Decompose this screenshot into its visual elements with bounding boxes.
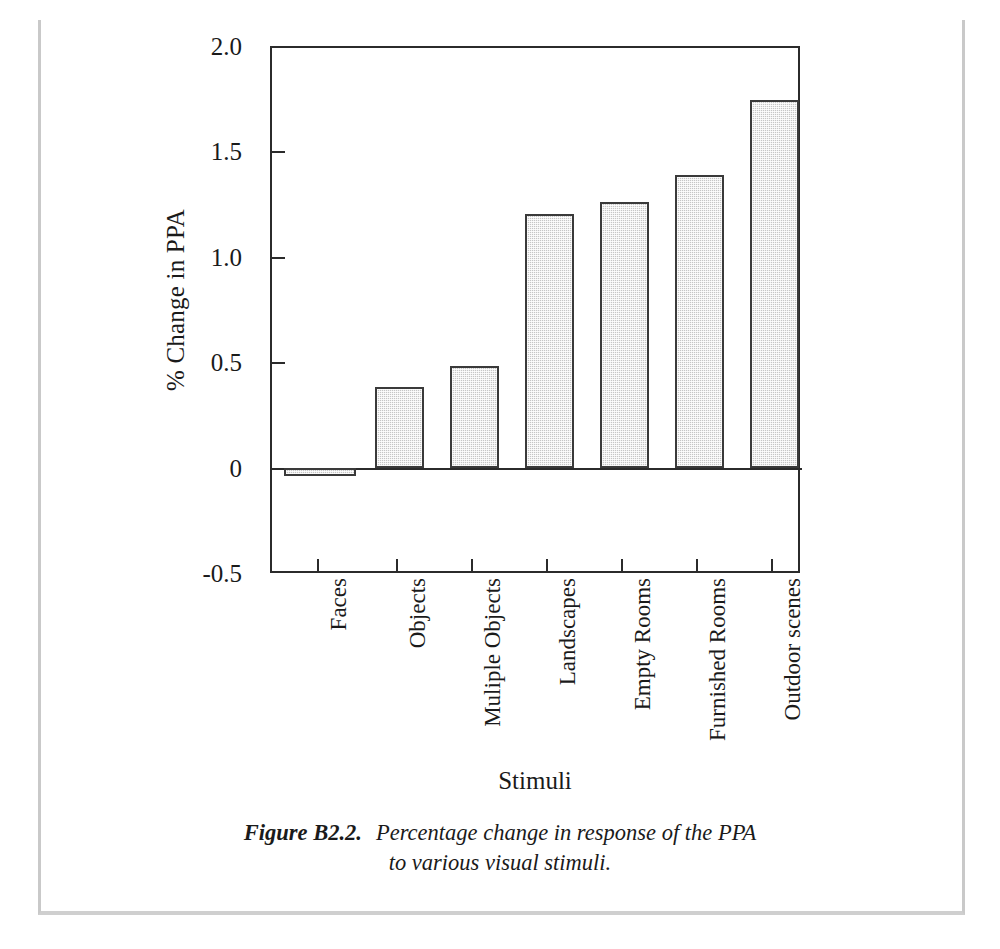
bar-faces[interactable]: [284, 468, 356, 476]
bar-outdoor-scenes[interactable]: [750, 100, 799, 468]
y-tick-label-3: 0.5: [211, 350, 242, 375]
y-tick-1.5: [272, 151, 285, 153]
cat-label-objects: Objects: [406, 578, 429, 648]
cat-label-faces: Faces: [327, 578, 350, 630]
figure-caption: Figure B2.2.Percentage change in respons…: [150, 818, 850, 877]
figure-b2-2: 2.0 1.5 1.0 0.5 0 -0.5 % Change in PPA: [0, 0, 1000, 949]
plot-area: [270, 46, 800, 573]
x-tick-objects: [396, 559, 398, 573]
cat-label-empty-rooms: Empty Rooms: [631, 578, 654, 710]
x-axis-ticks: [270, 559, 800, 575]
cat-label-landscapes: Landscapes: [556, 578, 579, 685]
x-axis-category-labels: Faces Objects Muliple Objects Landscapes…: [270, 578, 800, 763]
y-axis-title: % Change in PPA: [162, 209, 190, 391]
x-tick-muliple-objects: [471, 559, 473, 573]
y-axis-tick-labels: 2.0 1.5 1.0 0.5 0 -0.5: [0, 0, 270, 949]
y-tick-1.0: [272, 257, 285, 259]
cat-label-muliple-objects: Muliple Objects: [481, 578, 504, 727]
figure-caption-label: Figure B2.2.: [244, 820, 362, 845]
y-tick-label-0: 2.0: [211, 34, 242, 59]
x-axis-title: Stimuli: [270, 767, 800, 795]
y-tick-label-1: 1.5: [211, 139, 242, 164]
cat-label-outdoor-scenes: Outdoor scenes: [781, 578, 804, 720]
figure-caption-text-line1: Percentage change in response of the PPA: [376, 820, 756, 845]
y-tick-0.5: [272, 362, 285, 364]
y-tick-label-4: 0: [230, 456, 243, 481]
bar-landscapes[interactable]: [525, 214, 574, 468]
bar-muliple-objects[interactable]: [450, 366, 499, 468]
x-tick-furnished-rooms: [696, 559, 698, 573]
x-tick-empty-rooms: [621, 559, 623, 573]
bar-empty-rooms[interactable]: [600, 202, 649, 468]
cat-label-furnished-rooms: Furnished Rooms: [706, 578, 729, 741]
bar-furnished-rooms[interactable]: [675, 175, 724, 468]
y-tick-label-2: 1.0: [211, 245, 242, 270]
x-tick-landscapes: [546, 559, 548, 573]
y-tick-label-5: -0.5: [202, 561, 242, 586]
x-tick-faces: [317, 559, 319, 573]
bar-objects[interactable]: [375, 387, 424, 468]
x-tick-outdoor-scenes: [771, 559, 773, 573]
figure-caption-text-line2: to various visual stimuli.: [389, 850, 612, 875]
